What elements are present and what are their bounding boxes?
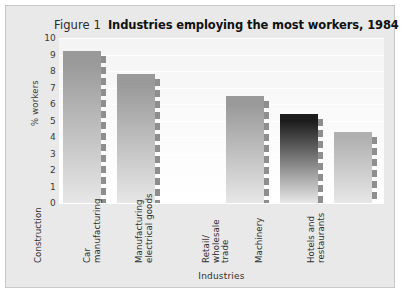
y-axis-label: % workers: [30, 68, 40, 138]
category-label-text: Manufacturing electrical goods: [135, 193, 154, 263]
category-label-text: Construction: [34, 207, 44, 263]
y-axis-tick-label: 3: [50, 149, 56, 159]
category-label-text: Retail/ wholesale trade: [202, 219, 231, 263]
bar[interactable]: [280, 114, 318, 203]
bar-shadow: [318, 119, 323, 203]
bar[interactable]: [334, 132, 372, 203]
y-axis-tick-label: 8: [50, 66, 56, 76]
y-axis-tick-label: 2: [50, 165, 56, 175]
figure-number-label: Figure 1: [54, 18, 101, 32]
x-axis-category-label: Hotels and restaurants: [330, 205, 384, 267]
x-axis-category-labels: ConstructionCar manufacturingManufacturi…: [59, 205, 384, 267]
bar-slot: [113, 38, 167, 203]
category-label-text: Car manufacturing: [83, 199, 102, 264]
chart-title: Industries employing the most workers, 1…: [108, 18, 399, 32]
x-axis-category-label: Retail/ wholesale trade: [222, 205, 276, 267]
x-axis-label: Industries: [59, 271, 384, 281]
bar-shadow: [101, 56, 106, 203]
bar[interactable]: [117, 74, 155, 203]
figure-container: Figure 1 Industries employing the most w…: [5, 5, 395, 288]
y-axis-tick-label: 4: [50, 132, 56, 142]
bar-shadow: [155, 79, 160, 203]
bar-slot: [167, 38, 221, 203]
gridline: [59, 203, 384, 204]
bar-slot: [59, 38, 113, 203]
y-axis-tick-label: 6: [50, 99, 56, 109]
bar-slot: [222, 38, 276, 203]
y-axis-tick-label: 9: [50, 50, 56, 60]
category-label-text: Machinery: [255, 218, 265, 264]
bar-slot: [330, 38, 384, 203]
y-axis-tick-label: 0: [50, 198, 56, 208]
bar-group: [59, 38, 384, 203]
bar-shadow: [264, 101, 269, 203]
category-label-text: Hotels and restaurants: [307, 213, 326, 263]
y-axis-tick-label: 10: [44, 33, 56, 43]
y-axis-tick-label: 1: [50, 182, 56, 192]
figure-title-row: Figure 1 Industries employing the most w…: [54, 16, 384, 34]
bar-shadow: [372, 137, 377, 203]
y-axis-tick-label: 7: [50, 83, 56, 93]
bar[interactable]: [226, 96, 264, 203]
bar[interactable]: [63, 51, 101, 203]
y-axis-tick-label: 5: [50, 116, 56, 126]
bar-slot: [276, 38, 330, 203]
